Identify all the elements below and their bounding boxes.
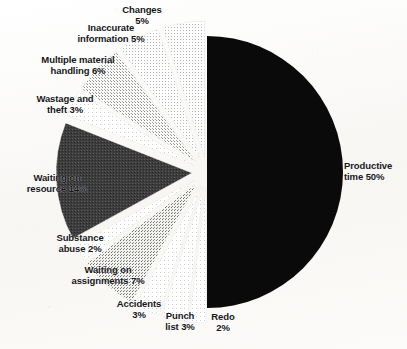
label-waiting-on-resource: Waiting on resource 14% bbox=[4, 172, 110, 194]
label-substance-line2: abuse 2% bbox=[30, 243, 130, 254]
label-waiting-assign-line2: assignments 7% bbox=[48, 275, 168, 286]
label-inaccurate-line1: Inaccurate bbox=[54, 22, 168, 33]
label-multiple-material-handling: Multiple material handling 6% bbox=[18, 54, 138, 76]
pie-chart-figure: Changes 5% Inaccurate information 5% Mul… bbox=[0, 0, 407, 349]
label-inaccurate-information: Inaccurate information 5% bbox=[54, 22, 168, 44]
label-substance-abuse: Substance abuse 2% bbox=[30, 232, 130, 254]
label-inaccurate-line2: information 5% bbox=[54, 33, 168, 44]
label-multiple-line1: Multiple material bbox=[18, 54, 138, 65]
label-productive-time: Productive time 50% bbox=[344, 160, 406, 182]
label-waiting-resource-line2: resource 14% bbox=[4, 183, 110, 194]
label-punch-list: Punch list 3% bbox=[155, 310, 205, 332]
pie-slice-productive-time bbox=[207, 36, 343, 308]
label-punch-line1: Punch bbox=[155, 310, 205, 321]
label-punch-line2: list 3% bbox=[155, 321, 205, 332]
label-productive-line2: time 50% bbox=[344, 171, 406, 182]
label-wastage-line1: Wastage and bbox=[14, 93, 116, 104]
label-waiting-resource-line1: Waiting on bbox=[4, 172, 110, 183]
label-multiple-line2: handling 6% bbox=[18, 65, 138, 76]
label-waiting-assign-line1: Waiting on bbox=[48, 264, 168, 275]
label-changes-line1: Changes bbox=[96, 4, 188, 15]
label-wastage-and-theft: Wastage and theft 3% bbox=[14, 93, 116, 115]
label-productive-line1: Productive bbox=[344, 160, 406, 171]
label-redo: Redo 2% bbox=[203, 311, 243, 333]
label-wastage-line2: theft 3% bbox=[14, 104, 116, 115]
label-waiting-on-assignments: Waiting on assignments 7% bbox=[48, 264, 168, 286]
label-accidents-line1: Accidents bbox=[106, 298, 172, 309]
label-redo-line1: Redo bbox=[203, 311, 243, 322]
label-substance-line1: Substance bbox=[30, 232, 130, 243]
label-redo-line2: 2% bbox=[203, 322, 243, 333]
